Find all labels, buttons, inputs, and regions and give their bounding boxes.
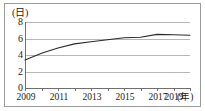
- gridline-2: [25, 72, 190, 73]
- gridline-8: [25, 22, 190, 23]
- y-tick-label-2: 2: [18, 67, 23, 77]
- x-tick-mark-2014: [108, 88, 109, 91]
- line-chart-figure: (日) 8 6 4 2 0 2009 2011 2013 2015 2017 2…: [0, 0, 205, 111]
- gridline-6: [25, 39, 190, 40]
- y-tick-label-6: 6: [18, 34, 23, 44]
- x-tick-label-2015: 2015: [116, 92, 135, 103]
- x-tick-mark-2018: [174, 88, 175, 91]
- x-tick-mark-2019: [190, 88, 191, 91]
- gridline-4: [25, 55, 190, 56]
- x-tick-mark-2010: [42, 88, 43, 91]
- y-tick-label-8: 8: [18, 17, 23, 27]
- y-tick-4: 4: [12, 50, 23, 60]
- x-axis-unit-label: (年): [177, 92, 193, 103]
- x-tick-mark-2012: [75, 88, 76, 91]
- x-tick-label-2011: 2011: [50, 92, 69, 103]
- y-tick-2: 2: [12, 67, 23, 77]
- x-tick-mark-2016: [141, 88, 142, 91]
- x-tick-mark-2017: [157, 88, 158, 91]
- x-tick-mark-2011: [58, 88, 59, 91]
- y-tick-8: 8: [12, 17, 23, 27]
- y-tick-6: 6: [12, 34, 23, 44]
- x-tick-label-2013: 2013: [83, 92, 102, 103]
- x-tick-mark-2015: [124, 88, 125, 91]
- y-axis-line: [25, 22, 26, 88]
- x-tick-label-2009: 2009: [17, 92, 36, 103]
- plot-area: [25, 22, 190, 88]
- figure-bottom-margin: [0, 108, 205, 111]
- y-tick-label-4: 4: [18, 50, 23, 60]
- x-tick-mark-2013: [91, 88, 92, 91]
- x-tick-mark-2009: [25, 88, 26, 91]
